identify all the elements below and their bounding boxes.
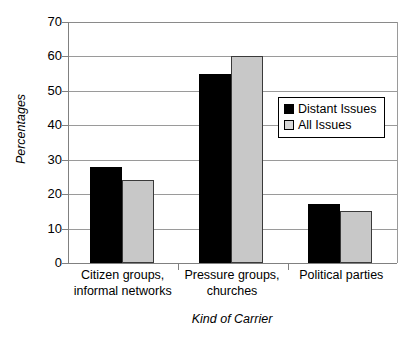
y-axis-tick-label: 0 bbox=[16, 256, 62, 269]
x-axis-category-label: Political parties bbox=[287, 268, 396, 284]
gridline bbox=[69, 22, 397, 23]
y-axis-tick-label: 50 bbox=[16, 84, 62, 97]
y-axis-tick-label: 20 bbox=[16, 187, 62, 200]
legend-swatch-icon bbox=[284, 104, 294, 114]
legend-label: Distant Issues bbox=[298, 103, 377, 116]
category-label-line-1: Pressure groups, bbox=[184, 268, 279, 282]
x-axis-category-label: Citizen groups,informal networks bbox=[68, 268, 177, 299]
plot-right-border bbox=[397, 22, 398, 263]
category-label-line-2: churches bbox=[177, 284, 286, 300]
x-axis-category-label: Pressure groups,churches bbox=[177, 268, 286, 299]
category-label-line-2: informal networks bbox=[68, 284, 177, 300]
legend-swatch-icon bbox=[284, 120, 294, 130]
y-axis-tick-label: 30 bbox=[16, 153, 62, 166]
legend-item-all-issues[interactable]: All Issues bbox=[284, 117, 377, 133]
bar-distant-issues-0 bbox=[90, 167, 122, 263]
plot-area bbox=[68, 22, 397, 264]
chart-legend: Distant IssuesAll Issues bbox=[278, 97, 385, 138]
bar-distant-issues-1 bbox=[199, 74, 231, 263]
bar-all-issues-2 bbox=[340, 211, 372, 263]
x-axis-category-labels: Citizen groups,informal networksPressure… bbox=[68, 268, 396, 308]
y-axis-tick-label: 70 bbox=[16, 15, 62, 28]
legend-item-distant-issues[interactable]: Distant Issues bbox=[284, 101, 377, 117]
bar-distant-issues-2 bbox=[308, 204, 340, 263]
category-label-line-1: Political parties bbox=[299, 268, 383, 282]
bar-all-issues-0 bbox=[122, 180, 154, 263]
y-axis-tick-label: 40 bbox=[16, 118, 62, 131]
bar-all-issues-1 bbox=[231, 56, 263, 263]
x-axis-title: Kind of Carrier bbox=[68, 312, 396, 326]
y-axis-tick-label: 60 bbox=[16, 49, 62, 62]
bar-chart: Percentages 706050403020100 Citizen grou… bbox=[0, 0, 409, 342]
legend-label: All Issues bbox=[298, 119, 352, 132]
y-axis-tick-labels: 706050403020100 bbox=[0, 22, 62, 263]
y-axis-tick-label: 10 bbox=[16, 222, 62, 235]
category-label-line-1: Citizen groups, bbox=[81, 268, 164, 282]
